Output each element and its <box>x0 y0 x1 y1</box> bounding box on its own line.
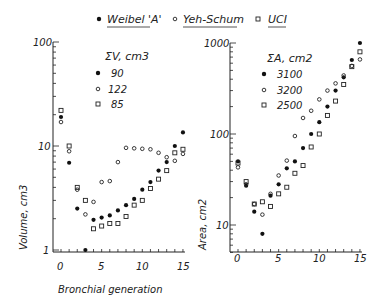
x-tick-10: 10 <box>136 261 149 272</box>
inset-value-uci: 2500 <box>277 100 302 111</box>
inset-value-weibel: 3100 <box>277 69 302 80</box>
inset-value-weibel: 90 <box>111 68 124 79</box>
y-axis-label-area: Area, cm2 <box>197 199 208 251</box>
volume-data-points <box>59 108 185 252</box>
x-tick-15: 15 <box>177 261 190 272</box>
x-tick-10: 10 <box>313 253 326 264</box>
y-tick-10: 10 <box>216 220 229 231</box>
inset-value-uci: 85 <box>111 99 124 110</box>
inset-value-yeh: 3200 <box>277 85 302 96</box>
inset-value-yeh: 122 <box>108 84 127 95</box>
legend-marker-filled-circle <box>97 17 101 21</box>
legend-label-weibel: Weibel 'A' <box>107 13 162 26</box>
legend-label-yeh-schum: Yeh-Schum <box>183 13 244 26</box>
chart-root: Weibel 'A' Yeh-Schum UCI 100 10 1 0 5 10… <box>0 0 380 305</box>
y-tick-1: 1 <box>43 245 49 256</box>
x-tick-5: 5 <box>275 253 281 264</box>
x-tick-0: 0 <box>57 261 63 272</box>
legend-marker-open-square <box>256 17 260 21</box>
x-axis-label: Bronchial generation <box>58 284 163 295</box>
volume-plot: 100 10 1 0 5 10 15 Volume, cm3 Bronchial… <box>18 37 190 295</box>
y-tick-10: 10 <box>38 141 51 152</box>
y-axis-label-volume: Volume, cm3 <box>18 185 29 250</box>
x-tick-15: 15 <box>354 253 367 264</box>
top-legend: Weibel 'A' Yeh-Schum UCI <box>97 13 287 27</box>
legend-marker-open-circle <box>173 17 177 21</box>
y-tick-100: 100 <box>33 37 52 48</box>
inset-legend-title-volume: ΣV, cm3 <box>105 50 149 63</box>
x-tick-0: 0 <box>234 253 240 264</box>
legend-label-uci: UCI <box>268 13 287 26</box>
y-tick-1000: 1000 <box>204 38 229 49</box>
area-plot: 1000 100 10 0 5 10 15 Area, cm2 ΣA, cm2 … <box>197 38 367 264</box>
y-tick-100: 100 <box>210 129 229 140</box>
x-tick-5: 5 <box>98 261 104 272</box>
inset-legend-title-area: ΣA, cm2 <box>267 52 312 65</box>
